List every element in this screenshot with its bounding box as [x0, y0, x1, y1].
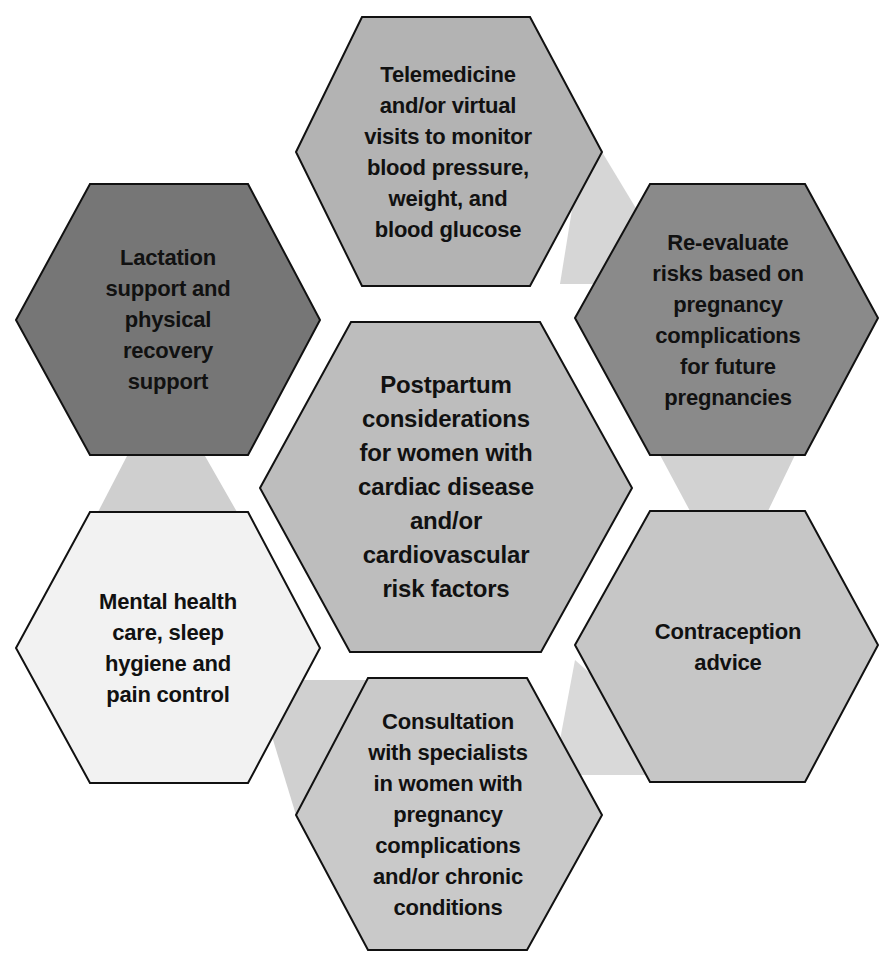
node-label-top: Telemedicine and/or virtual visits to mo…	[330, 17, 566, 286]
connector-upper-right-to-lower-right	[660, 455, 795, 511]
node-label-lower-right: Contraception advice	[610, 511, 846, 782]
node-label-upper-left: Lactation support and physical recovery …	[50, 184, 286, 455]
node-label-upper-right: Re-evaluate risks based on pregnancy com…	[610, 184, 846, 455]
node-label-lower-left: Mental health care, sleep hygiene and pa…	[50, 512, 286, 783]
connector-upper-left-to-lower-left	[98, 456, 237, 512]
center-label: Postpartum considerations for women with…	[300, 322, 592, 652]
node-label-bottom: Consultation with specialists in women w…	[330, 678, 566, 950]
